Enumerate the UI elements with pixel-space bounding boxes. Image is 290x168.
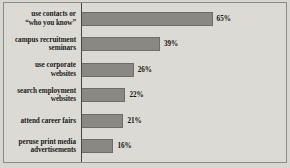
bar-value-label: 26% [138,66,152,74]
category-axis-line [81,3,82,162]
bar-value-label: 21% [127,117,141,125]
chart-row: use corporate websites 26% [4,59,286,81]
category-label-line1: use contacts or [31,10,76,18]
chart-row: attend career fairs 21% [4,110,286,132]
bar-area: 16% [81,135,286,157]
bar-value-label: 65% [217,15,231,23]
category-label-line2: websites [51,95,76,103]
chart-row: campus recruitment seminars 39% [4,33,286,55]
bar-area: 22% [81,84,286,106]
bar [81,63,134,77]
bar-area: 21% [81,110,286,132]
bar-value-label: 16% [117,142,131,150]
category-label-line2: websites [51,70,76,78]
category-label-line1: search employment [17,87,76,95]
category-label: use corporate websites [4,61,81,78]
bar-area: 39% [81,33,286,55]
plot-frame: use contacts or “who you know” 65% campu… [3,2,287,163]
category-label: use contacts or “who you know” [4,10,81,27]
bar-value-label: 39% [164,40,178,48]
chart-row: peruse print media advertisements 16% [4,135,286,157]
category-label-line2: advertisements [30,146,76,154]
chart-row: search employment websites 22% [4,84,286,106]
bar-area: 65% [81,8,286,30]
bar [81,88,125,102]
category-label: attend career fairs [4,117,81,125]
bar [81,114,123,128]
chart-row: use contacts or “who you know” 65% [4,8,286,30]
category-label-line2: “who you know” [25,19,76,27]
bar [81,37,160,51]
category-label-line2: seminars [49,44,76,52]
category-label-line1: campus recruitment [15,36,76,44]
bar [81,12,213,26]
category-label: search employment websites [4,87,81,104]
bar-value-label: 22% [129,91,143,99]
bar [81,139,113,153]
category-label: peruse print media advertisements [4,138,81,155]
category-label-line1: peruse print media [19,138,76,146]
bar-chart: use contacts or “who you know” 65% campu… [0,0,290,168]
chart-rows: use contacts or “who you know” 65% campu… [4,3,286,162]
bar-area: 26% [81,59,286,81]
category-label: campus recruitment seminars [4,36,81,53]
category-label-line1: use corporate [35,61,76,69]
category-label-line1: attend career fairs [21,117,76,125]
